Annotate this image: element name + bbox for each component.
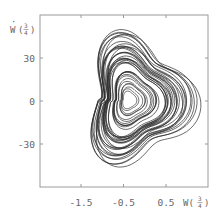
x-axis-label-num: 3 xyxy=(198,195,202,202)
trajectory-curves xyxy=(91,30,201,168)
y-axis-label-close: ) xyxy=(30,25,35,35)
y-tick-label: 30 xyxy=(24,53,36,64)
trajectory-path xyxy=(91,30,201,168)
x-tick-label: -1.5 xyxy=(70,197,93,208)
phase-portrait-chart: -1.5-0.50.5 300-30 W · ( 3 4 ) W( 3 4 ) xyxy=(0,0,222,215)
y-axis-label-dot: · xyxy=(11,17,16,27)
y-axis-label-den: 4 xyxy=(24,29,28,36)
y-axis-label-open: ( xyxy=(18,25,23,35)
x-axis-label: W( 3 4 ) xyxy=(183,195,209,209)
y-tick-label: -30 xyxy=(18,139,35,150)
y-axis-label-num: 3 xyxy=(24,22,28,29)
y-axis-label: W · ( 3 4 ) xyxy=(10,17,35,36)
plot-frame xyxy=(40,15,208,187)
x-tick-label: -0.5 xyxy=(112,197,135,208)
y-tick-label: 0 xyxy=(29,96,35,107)
x-tick-label: 0.5 xyxy=(157,197,174,208)
x-axis-label-den: 4 xyxy=(198,202,202,209)
x-axis-label-base: W( xyxy=(183,198,194,208)
x-axis-label-close: ) xyxy=(204,198,209,208)
